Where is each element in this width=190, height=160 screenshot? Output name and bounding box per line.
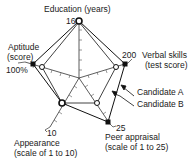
axis-verbal <box>79 63 128 78</box>
axis-label-education: Education (years) <box>44 4 111 14</box>
axis-label-verbal-2: (test score) <box>145 60 188 70</box>
axis-max-aptitude: 100% <box>6 65 28 75</box>
axis-label-aptitude-1: Aptitude <box>8 42 39 52</box>
legend-candidate-a: Candidate A <box>137 87 183 97</box>
axis-label-appearance-2: (scale of 1 to 10) <box>14 148 77 158</box>
axis-max-verbal: 200 <box>122 50 136 60</box>
axis-max-education: 16 <box>66 16 75 26</box>
axis-max-appearance: 10 <box>47 128 56 138</box>
axis-label-peer-2: (scale of 1 to 25) <box>105 142 168 152</box>
axis-label-appearance-1: Appearance <box>14 138 60 148</box>
legend-candidate-b: Candidate B <box>137 99 184 109</box>
radar-chart <box>0 0 190 160</box>
axis-peer <box>79 78 110 124</box>
legend-callouts <box>112 85 134 106</box>
axis-label-verbal-1: Verbal skills <box>142 50 187 60</box>
axis-label-aptitude-2: (score) <box>7 52 33 62</box>
axis-label-peer-1: Peer appraisal <box>105 132 160 142</box>
